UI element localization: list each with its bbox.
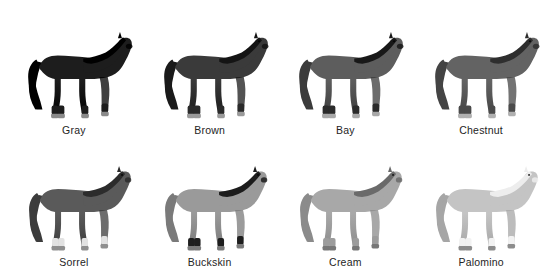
horse-cell-gray[interactable]: Gray xyxy=(6,4,142,137)
horse-cell-sorrel[interactable]: Sorrel xyxy=(6,137,142,270)
horse-cell-bay[interactable]: Bay xyxy=(278,4,414,137)
horse-label: Sorrel xyxy=(59,256,88,269)
horse-cell-chestnut[interactable]: Chestnut xyxy=(413,4,549,137)
horse-label: Brown xyxy=(194,124,225,137)
horse-label: Buckskin xyxy=(188,256,232,269)
horse-side-profile-icon xyxy=(419,156,543,256)
horse-side-profile-icon xyxy=(148,22,272,124)
horse-grid: Gray Brown Bay Chestnut Sorrel xyxy=(0,0,555,271)
horse-label: Gray xyxy=(62,124,86,137)
horse-side-profile-icon xyxy=(419,22,543,124)
horse-cell-brown[interactable]: Brown xyxy=(142,4,278,137)
horse-label: Cream xyxy=(329,256,362,269)
horse-side-profile-icon xyxy=(148,156,272,256)
horse-label: Chestnut xyxy=(459,124,503,137)
horse-label: Bay xyxy=(336,124,355,137)
horse-side-profile-icon xyxy=(12,22,136,124)
horse-label: Palomino xyxy=(458,256,503,269)
horse-cell-cream[interactable]: Cream xyxy=(278,137,414,270)
horse-side-profile-icon xyxy=(283,22,407,124)
horse-side-profile-icon xyxy=(12,156,136,256)
horse-cell-buckskin[interactable]: Buckskin xyxy=(142,137,278,270)
horse-cell-palomino[interactable]: Palomino xyxy=(413,137,549,270)
horse-color-chart: Gray Brown Bay Chestnut Sorrel xyxy=(0,0,555,271)
horse-side-profile-icon xyxy=(283,156,407,256)
